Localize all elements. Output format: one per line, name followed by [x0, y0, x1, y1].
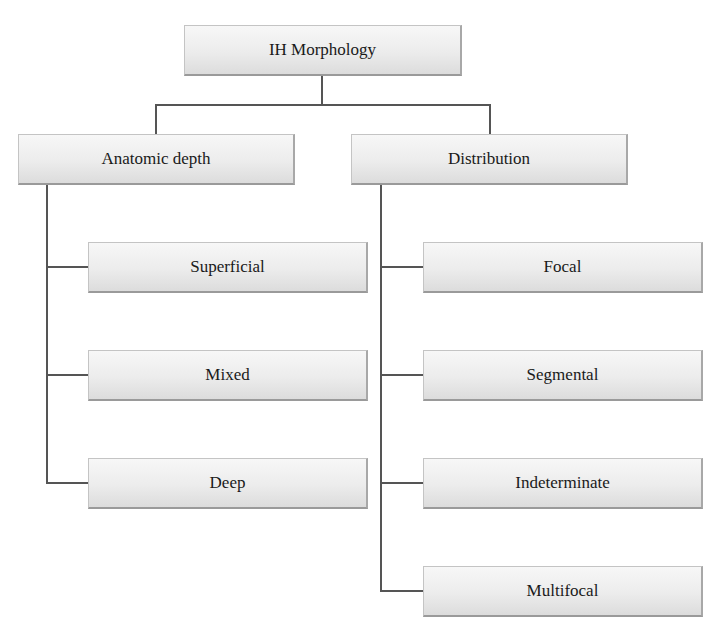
root-horizontal-connector	[155, 104, 491, 106]
leaf-node-multifocal: Multifocal	[423, 566, 703, 617]
root-node-ih-morphology: IH Morphology	[184, 25, 462, 76]
mixed-connector	[46, 374, 88, 376]
root-stem-connector	[321, 75, 323, 106]
leaf-node-focal: Focal	[423, 242, 703, 293]
superficial-connector	[46, 266, 88, 268]
leaf-node-superficial: Superficial	[88, 242, 368, 293]
focal-connector	[380, 266, 423, 268]
leaf-node-indeterminate: Indeterminate	[423, 458, 703, 509]
anatomic-depth-trunk-connector	[46, 184, 48, 484]
leaf-node-segmental: Segmental	[423, 350, 703, 401]
anatomic-depth-stem-connector	[155, 104, 157, 135]
deep-connector	[46, 482, 88, 484]
branch-node-distribution: Distribution	[351, 134, 628, 185]
distribution-trunk-connector	[380, 184, 382, 592]
indeterminate-connector	[380, 482, 423, 484]
leaf-node-mixed: Mixed	[88, 350, 368, 401]
multifocal-connector	[380, 590, 423, 592]
branch-node-anatomic-depth: Anatomic depth	[18, 134, 295, 185]
distribution-stem-connector	[489, 104, 491, 135]
leaf-node-deep: Deep	[88, 458, 368, 509]
segmental-connector	[380, 374, 423, 376]
